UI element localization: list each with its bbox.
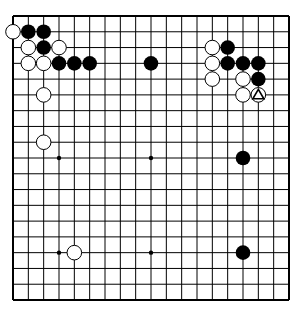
black-stone[interactable] <box>82 56 97 71</box>
star-point <box>57 156 61 160</box>
black-stone[interactable] <box>52 56 67 71</box>
white-stone[interactable] <box>67 245 82 260</box>
white-stone[interactable] <box>205 72 220 87</box>
black-stone[interactable] <box>220 40 235 55</box>
black-stone[interactable] <box>220 56 235 71</box>
black-stone[interactable] <box>251 56 266 71</box>
white-stone[interactable] <box>236 88 251 103</box>
white-stone[interactable] <box>205 40 220 55</box>
white-stone[interactable] <box>205 56 220 71</box>
black-stone[interactable] <box>144 56 159 71</box>
black-stone[interactable] <box>236 245 251 260</box>
white-stone[interactable] <box>52 40 67 55</box>
black-stone[interactable] <box>21 24 36 39</box>
star-point <box>149 156 153 160</box>
white-stone[interactable] <box>236 72 251 87</box>
white-stone[interactable] <box>36 88 51 103</box>
star-point <box>149 250 153 254</box>
white-stone[interactable] <box>21 40 36 55</box>
star-point <box>57 250 61 254</box>
white-stone[interactable] <box>36 135 51 150</box>
black-stone[interactable] <box>36 24 51 39</box>
white-stone[interactable] <box>36 56 51 71</box>
black-stone[interactable] <box>236 56 251 71</box>
black-stone[interactable] <box>236 151 251 166</box>
white-stone[interactable] <box>21 56 36 71</box>
black-stone[interactable] <box>67 56 82 71</box>
black-stone[interactable] <box>36 40 51 55</box>
black-stone[interactable] <box>251 72 266 87</box>
white-stone[interactable] <box>6 24 21 39</box>
go-board[interactable] <box>0 0 296 314</box>
